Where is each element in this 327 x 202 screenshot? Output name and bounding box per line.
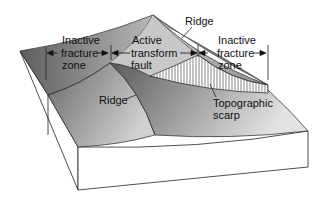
label-text: zone (62, 59, 86, 71)
label-text: scarp (213, 109, 240, 121)
label-text: fracture (61, 47, 98, 59)
ridge-top-leader (182, 27, 192, 38)
label-ridge-bottom: Ridge (99, 94, 128, 106)
label-text: transform (131, 47, 177, 59)
label-text: zone (218, 59, 242, 71)
label-inactive-fracture-zone-right: Inactive fracture zone (217, 34, 256, 71)
label-text: fracture (217, 47, 254, 59)
transform-fault-diagram: Inactive fracture zone Active transform … (0, 0, 327, 202)
label-ridge-top: Ridge (185, 15, 214, 27)
label-text: Active (132, 34, 162, 46)
label-text: fault (131, 59, 152, 71)
label-text: Inactive (62, 34, 100, 46)
label-text: Topographic (213, 97, 273, 109)
label-text: Inactive (218, 34, 256, 46)
